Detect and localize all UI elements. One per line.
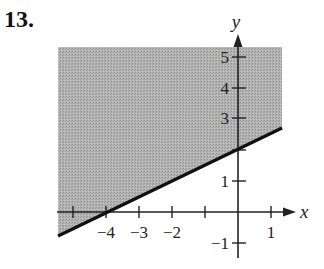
x-tick-label: −2: [163, 223, 181, 242]
y-axis-label: y: [230, 11, 241, 32]
x-axis-arrow-icon: [283, 208, 296, 217]
x-tick-label: −3: [130, 223, 148, 242]
y-tick-label: 1: [221, 172, 230, 191]
x-tick-label: −4: [97, 223, 116, 242]
x-tick-label: 1: [267, 223, 276, 242]
y-tick-label: 5: [221, 48, 230, 67]
y-tick-label: −1: [211, 234, 229, 253]
y-tick-label: 3: [221, 109, 230, 128]
shaded-region: [58, 47, 282, 236]
inequality-graph: −4 −3 −2 1 x 5 4 3 1 −1 y: [0, 0, 324, 269]
y-axis-arrow-icon: [234, 34, 243, 47]
y-tick-label: 4: [221, 79, 230, 98]
x-axis-label: x: [299, 201, 309, 222]
